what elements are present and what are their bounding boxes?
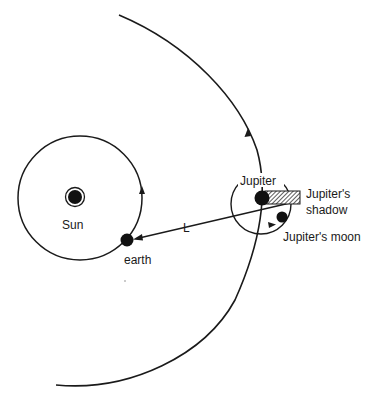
moon-label: Jupiter's moon <box>283 230 361 244</box>
sun-label: Sun <box>62 218 83 232</box>
distance-label: L <box>183 221 190 235</box>
earth-orbit-arrow-icon <box>139 186 145 194</box>
diagram-svg: Sun L earth Jupiter Jupiter's shadow Jup… <box>0 0 368 403</box>
distance-arrow-icon <box>133 234 143 241</box>
earth-label: earth <box>124 253 151 267</box>
jupiter-moon <box>277 212 288 223</box>
jupiter-shadow <box>265 191 300 204</box>
sun <box>66 188 85 207</box>
jupiter-label: Jupiter <box>240 174 276 188</box>
speck <box>124 280 126 282</box>
diagram-canvas: Sun L earth Jupiter Jupiter's shadow Jup… <box>0 0 368 403</box>
moon-orbit-arrow-icon <box>268 222 276 228</box>
earth <box>121 234 134 247</box>
shadow-label-line2: shadow <box>306 203 348 217</box>
jupiter <box>255 191 270 206</box>
shadow-label-line1: Jupiter's <box>306 187 350 201</box>
